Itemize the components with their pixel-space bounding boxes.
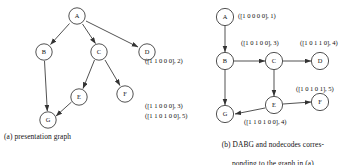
node-f-label: F (318, 98, 322, 105)
caption-panel-a: (a) presentation graph (4, 132, 144, 142)
nodecode-c: ([1 0 1 0 0], 3) (241, 39, 279, 47)
nodecode-b: ([1 1 0 0 0], 2) (145, 57, 183, 65)
node-c: C (265, 52, 282, 69)
node-g-label: G (223, 110, 228, 117)
edge-e-to-g (235, 108, 265, 114)
caption-panel-b-line2: ponding to the graph in (a) (232, 159, 314, 165)
node-g-label: G (46, 116, 51, 123)
edge-a-to-b (51, 24, 70, 45)
node-a: A (216, 8, 233, 25)
nodecode-a: ([1 0 0 0 0], 1) (238, 12, 276, 20)
node-e-label: E (272, 101, 276, 108)
node-f-label: F (123, 90, 127, 97)
node-b-label: B (42, 48, 46, 55)
nodecode-g-second: ([1 1 0 1 0 0], 5) (145, 112, 188, 120)
node-g: G (40, 112, 56, 128)
edge-e-to-f (283, 102, 311, 104)
edge-a-to-d (86, 21, 138, 47)
node-b: B (36, 44, 52, 60)
node-f: F (117, 86, 133, 102)
caption-panel-b: (b) DABG and nodecodes corres- ponding t… (178, 130, 356, 165)
node-a-label: A (75, 12, 80, 19)
edge-c-to-f (105, 60, 120, 86)
edge-b-to-g (45, 61, 48, 111)
nodecode-e: ([1 1 0 1 0 0], 4) (244, 118, 287, 126)
figure-container: A B C D E (0, 0, 356, 165)
nodecode-f: ([1 0 1 0 1], 5) (296, 85, 334, 93)
node-a: A (69, 8, 85, 24)
node-g: G (216, 105, 233, 122)
node-group: A B C D E (216, 8, 328, 122)
node-a-label: A (223, 13, 228, 20)
node-e-label: E (77, 93, 81, 100)
node-c-label: C (97, 48, 101, 55)
node-b: B (216, 52, 233, 69)
panel-dabg-graph: A B C D E (178, 0, 356, 165)
node-c: C (91, 44, 107, 60)
edge-c-to-e (83, 60, 95, 89)
node-d: D (311, 52, 328, 69)
edge-e-to-g (56, 102, 72, 116)
node-e: E (265, 96, 282, 113)
node-e: E (71, 89, 87, 105)
node-d-label: D (145, 48, 150, 55)
node-f: F (311, 93, 328, 110)
node-b-label: B (223, 57, 227, 64)
node-d-label: D (318, 57, 323, 64)
caption-panel-b-line1: (b) DABG and nodecodes corres- (222, 140, 324, 149)
nodecode-d: ([1 0 1 1 0], 4) (300, 39, 338, 47)
panel-presentation-graph: A B C D E (0, 0, 178, 165)
node-c-label: C (272, 57, 276, 64)
edge-a-to-c (83, 24, 96, 44)
nodecode-g-first: ([1 1 0 0 0], 3) (145, 102, 183, 110)
